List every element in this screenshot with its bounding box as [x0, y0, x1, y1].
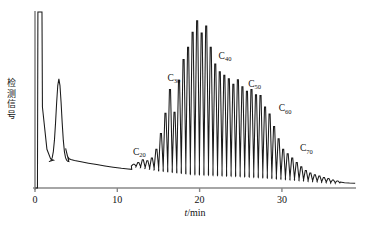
peak-label-C40: C40	[219, 51, 232, 63]
x-tick-labels: 0102030	[33, 194, 287, 205]
y-axis-title-char-3: 号	[4, 110, 18, 121]
x-tick-label-30: 30	[277, 194, 287, 205]
peak-label-C30: C30	[168, 73, 181, 85]
plot-canvas: 0102030 C20C30C40C50C60C70 t/min	[0, 0, 367, 230]
trace-layer	[35, 12, 355, 188]
x-tick-label-20: 20	[195, 194, 205, 205]
peak-label-C70: C70	[300, 143, 313, 155]
peak-label-C20: C20	[133, 147, 146, 159]
y-axis-title-char-0: 检	[4, 78, 18, 89]
peak-label-C60: C60	[279, 103, 292, 115]
y-axis-title: 检 测 信 号	[4, 78, 18, 120]
x-tick-label-0: 0	[33, 194, 38, 205]
x-axis-title: t/min	[184, 207, 205, 218]
chromatogram-figure: 检 测 信 号 0102030 C20C30C40C50C60C70 t/min	[0, 0, 367, 230]
peak-label-C50: C50	[248, 79, 261, 91]
x-axis-title-unit: /min	[187, 207, 205, 218]
y-axis-title-char-2: 信	[4, 99, 18, 110]
chromatogram-trace	[35, 12, 355, 188]
x-tick-label-10: 10	[112, 194, 122, 205]
y-axis-title-char-1: 测	[4, 89, 18, 100]
